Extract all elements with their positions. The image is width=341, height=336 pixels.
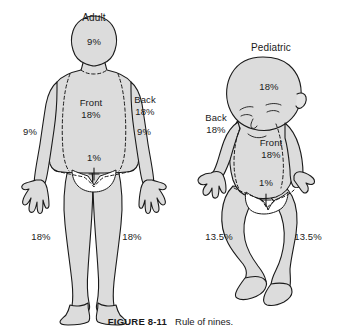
adult-head-percentage: 9% <box>78 36 110 47</box>
pediatric-head <box>227 57 302 130</box>
pediatric-back-percentage: 18% <box>195 124 237 136</box>
adult-figure-drawing <box>22 16 167 325</box>
adult-back-label: Back <box>124 94 166 106</box>
rule-of-nines-figure: Adult 9% Front 18% Back 18% 9% 9% 1% 18%… <box>0 0 341 336</box>
pediatric-groin-percentage: 1% <box>250 177 282 188</box>
adult-front-label-group: Front 18% <box>68 97 114 120</box>
pediatric-left-foot <box>236 277 267 300</box>
adult-right-leg-percentage: 18% <box>115 231 149 242</box>
adult-back-label-group: Back 18% <box>124 94 166 117</box>
figure-caption-id: FIGURE 8-11 <box>108 316 167 327</box>
figure-caption-text: Rule of nines. <box>175 316 233 327</box>
adult-left-leg-percentage: 18% <box>24 231 58 242</box>
figure-caption: FIGURE 8-11Rule of nines. <box>0 316 341 327</box>
pediatric-right-hand <box>294 172 315 193</box>
pediatric-left-hand <box>198 172 226 198</box>
pediatric-left-leg-percentage: 13.5% <box>198 231 240 242</box>
adult-right-hand <box>139 180 166 214</box>
pediatric-front-label: Front <box>248 137 294 149</box>
adult-front-label: Front <box>68 97 114 109</box>
pediatric-head-percentage: 18% <box>252 81 286 92</box>
pediatric-back-label: Back <box>195 112 237 124</box>
pediatric-front-percentage: 18% <box>248 149 294 161</box>
adult-right-arm-percentage: 9% <box>128 126 160 137</box>
pediatric-ear <box>296 93 306 108</box>
adult-groin-percentage: 1% <box>78 152 110 163</box>
pediatric-right-leg-percentage: 13.5% <box>287 231 329 242</box>
adult-front-percentage: 18% <box>68 109 114 121</box>
pediatric-title: Pediatric <box>240 42 302 53</box>
pediatric-right-foot <box>264 283 292 305</box>
adult-back-percentage: 18% <box>124 106 166 118</box>
adult-title: Adult <box>68 12 120 23</box>
pediatric-back-label-group: Back 18% <box>195 112 237 135</box>
adult-left-hand <box>22 180 49 214</box>
adult-left-arm-percentage: 9% <box>14 126 46 137</box>
pediatric-front-label-group: Front 18% <box>248 137 294 160</box>
